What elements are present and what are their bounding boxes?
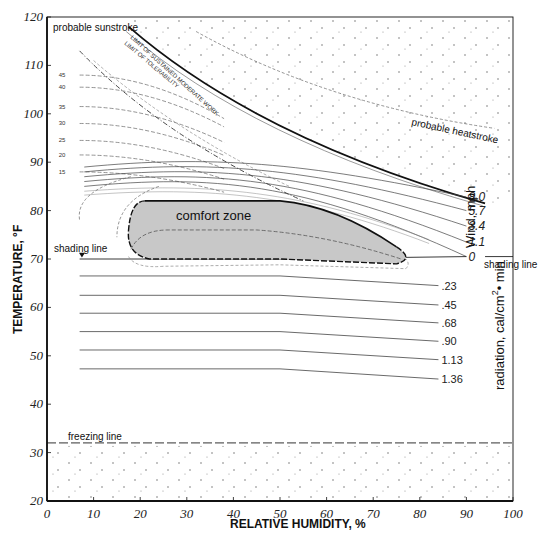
x-axis-title: RELATIVE HUMIDITY, % — [230, 517, 366, 531]
x-tick-label: 70 — [367, 506, 381, 521]
vapor-pressure-label: 30 — [59, 120, 66, 126]
shading-line-label-left: shading line — [54, 243, 108, 254]
radiation-line-label: .23 — [441, 280, 456, 292]
radiation-line — [80, 295, 439, 305]
plot-area: 4540353025201501.13.45.78.0.23.45.68.901… — [47, 17, 513, 498]
y-tick-label: 40 — [30, 396, 44, 411]
x-tick-label: 0 — [44, 506, 51, 521]
radiation-line-label: .45 — [441, 299, 456, 311]
vapor-pressure-label: 40 — [59, 84, 66, 90]
radiation-line — [80, 369, 439, 379]
comfort-zone — [128, 201, 405, 264]
radiation-title-tail: • min — [492, 261, 507, 290]
vapor-pressure-label: 35 — [59, 104, 66, 110]
comfort-zone-label: comfort zone — [176, 208, 251, 223]
x-tick-label: 80 — [413, 506, 427, 521]
y-tick-label: 20 — [30, 493, 44, 508]
x-tick-label: 100 — [503, 506, 523, 521]
vapor-pressure-curve — [80, 123, 224, 155]
radiation-title-text: radiation, cal/cm — [492, 295, 507, 390]
radiation-line — [80, 313, 439, 323]
y-tick-label: 100 — [24, 106, 44, 121]
hot-stipple-region — [129, 17, 513, 206]
radiation-line — [80, 350, 439, 360]
svg-text:radiation, cal/cm2• min: radiation, cal/cm2• min — [490, 261, 507, 390]
x-tick-label: 30 — [179, 506, 194, 521]
cold-stipple-region — [49, 446, 511, 498]
radiation-axis-title: radiation, cal/cm2• min — [490, 261, 507, 390]
radiation-line — [80, 332, 439, 342]
y-tick-label: 120 — [24, 9, 44, 24]
radiation-line-label: 1.13 — [441, 354, 462, 366]
sunstroke-label: probable sunstroke — [53, 22, 138, 33]
y-tick-label: 80 — [30, 203, 44, 218]
wind-line-label: 0 — [468, 250, 475, 264]
y-axis-title: TEMPERATURE, °F — [11, 225, 25, 334]
y-tick-label: 90 — [30, 154, 44, 169]
radiation-line-label: .90 — [441, 335, 456, 347]
vapor-pressure-label: 20 — [59, 152, 66, 158]
y-tick-label: 60 — [30, 299, 44, 314]
vapor-pressure-label: 25 — [59, 137, 66, 143]
y-tick-label: 50 — [30, 348, 44, 363]
vapor-pressure-label: 15 — [59, 169, 66, 175]
freezing-line-label: freezing line — [68, 431, 122, 442]
radiation-line-label: .68 — [441, 317, 456, 329]
comfort-chart: 4540353025201501.13.45.78.0.23.45.68.901… — [0, 0, 539, 546]
vapor-pressure-label: 45 — [59, 72, 66, 78]
vapor-pressure-curve — [80, 140, 224, 168]
wind-axis-title: Wind, mph — [463, 186, 478, 248]
radiation-line-label: 1.36 — [441, 373, 462, 385]
x-tick-label: 10 — [87, 506, 101, 521]
y-tick-label: 110 — [24, 57, 43, 72]
radiation-line — [80, 276, 439, 286]
y-tick-label: 30 — [29, 445, 44, 460]
x-tick-label: 20 — [134, 506, 148, 521]
x-tick-label: 90 — [460, 506, 474, 521]
y-tick-label: 70 — [30, 251, 44, 266]
